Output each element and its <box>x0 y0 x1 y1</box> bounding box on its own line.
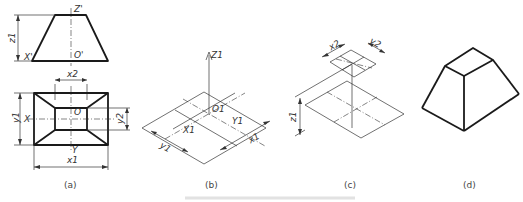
panel-c-top-rectangle: x2 y2 z1 (c) <box>288 35 404 190</box>
label-x1-axis: X1 <box>182 125 195 135</box>
label-o1: O1 <box>212 104 225 114</box>
panel-b-base-rectangle: Z1 O1 Y1 X1 y1 x1 (b) <box>142 50 270 190</box>
caption-b: (b) <box>205 180 218 190</box>
label-z1-axis: Z1 <box>210 50 223 60</box>
label-o-prime: O' <box>74 50 84 60</box>
caption-d: (d) <box>463 180 476 190</box>
label-x-prime: X' <box>23 52 33 62</box>
label-x2: x2 <box>66 69 78 79</box>
label-x2-dim: x2 <box>326 38 342 53</box>
panel-d-frustum: (d) <box>422 48 519 190</box>
caption-c: (c) <box>344 180 356 190</box>
caption-a: (a) <box>64 180 77 190</box>
label-z-prime: Z' <box>73 4 83 14</box>
label-y: Y <box>72 145 79 155</box>
panel-a-top-view: x2 y1 y2 X O Y x1 (a) <box>11 69 130 190</box>
label-y2: y2 <box>115 113 125 125</box>
label-x1: x1 <box>66 155 78 165</box>
label-z1: z1 <box>7 33 17 44</box>
label-y2-dim: y2 <box>367 35 383 50</box>
label-y1-axis: Y1 <box>232 116 243 126</box>
label-y1: y1 <box>11 112 21 124</box>
label-x1-dim: x1 <box>246 131 261 146</box>
label-z1-dim: z1 <box>288 112 298 123</box>
label-o: O <box>74 107 81 117</box>
panel-a-front-view: Z' X' O' z1 <box>7 4 108 66</box>
frustum-isometric-figure: Z' X' O' z1 x2 y1 y2 X O Y <box>0 0 523 202</box>
label-x: X <box>23 114 31 124</box>
